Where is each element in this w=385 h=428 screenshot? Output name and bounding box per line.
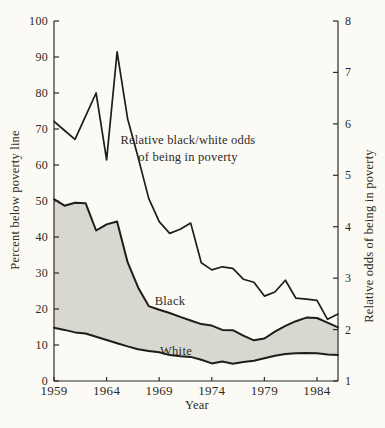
- odds-line-annotation: Relative black/white odds of being in po…: [121, 132, 256, 166]
- right-tick-label: 3: [345, 271, 351, 285]
- x-axis-title: Year: [185, 398, 209, 413]
- left-tick-label: 30: [35, 266, 48, 280]
- left-tick-label: 10: [35, 338, 48, 352]
- black-white-shaded-band: [54, 199, 338, 364]
- right-tick-label: 6: [345, 117, 351, 131]
- left-tick-label: 40: [35, 230, 48, 244]
- poverty-figure: 0102030405060708090100123456781959196419…: [0, 0, 385, 428]
- annotation-line-1: Relative black/white odds: [121, 132, 256, 149]
- x-tick-label: 1979: [251, 383, 278, 398]
- x-tick-label: 1969: [146, 383, 173, 398]
- right-tick-label: 4: [345, 220, 351, 234]
- right-tick-label: 8: [345, 14, 351, 28]
- left-tick-label: 60: [35, 158, 48, 172]
- annotation-line-2: of being in poverty: [121, 149, 256, 166]
- left-tick-label: 70: [35, 122, 48, 136]
- left-tick-label: 100: [29, 14, 48, 28]
- left-tick-label: 20: [35, 302, 48, 316]
- right-tick-label: 2: [345, 323, 351, 337]
- x-tick-label: 1984: [303, 383, 330, 398]
- x-tick-label: 1959: [40, 383, 67, 398]
- x-tick-label: 1964: [93, 383, 120, 398]
- x-tick-label: 1974: [198, 383, 225, 398]
- white-series-label: White: [160, 344, 192, 359]
- left-tick-label: 80: [35, 86, 48, 100]
- right-tick-label: 5: [345, 168, 351, 182]
- right-tick-label: 7: [345, 65, 351, 79]
- right-axis-title: Relative odds of being in poverty: [362, 149, 377, 323]
- left-tick-label: 50: [35, 194, 48, 208]
- left-tick-label: 90: [35, 50, 48, 64]
- chart-canvas: 0102030405060708090100123456781959196419…: [0, 0, 385, 428]
- left-axis-title: Percent below poverty line: [8, 130, 23, 270]
- black-series-label: Black: [155, 294, 186, 309]
- right-tick-label: 1: [345, 374, 351, 388]
